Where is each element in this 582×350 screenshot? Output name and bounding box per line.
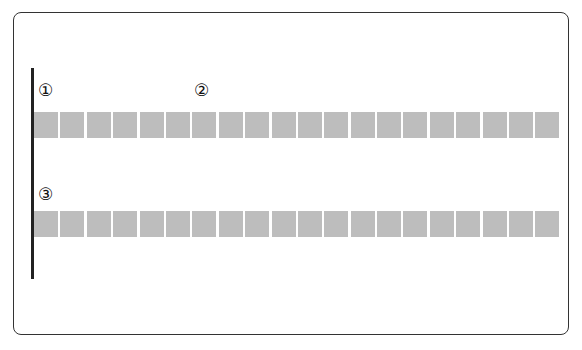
cell-row-1 bbox=[34, 112, 559, 138]
cell bbox=[34, 112, 58, 138]
cell bbox=[140, 112, 164, 138]
cell bbox=[298, 211, 322, 237]
cell bbox=[34, 211, 58, 237]
cell bbox=[87, 112, 111, 138]
label-1: ① bbox=[38, 82, 53, 99]
cell bbox=[219, 112, 243, 138]
cell bbox=[509, 112, 533, 138]
cell bbox=[272, 112, 296, 138]
cell bbox=[509, 211, 533, 237]
cell-row-2 bbox=[34, 211, 559, 237]
cell bbox=[430, 211, 454, 237]
cell bbox=[219, 211, 243, 237]
cell bbox=[351, 112, 375, 138]
label-3: ③ bbox=[38, 186, 53, 203]
cell bbox=[140, 211, 164, 237]
cell bbox=[456, 112, 480, 138]
cell bbox=[245, 112, 269, 138]
cell bbox=[377, 211, 401, 237]
diagram-frame bbox=[13, 12, 569, 335]
cell bbox=[192, 112, 216, 138]
cell bbox=[403, 211, 427, 237]
vertical-line bbox=[31, 68, 34, 279]
cell bbox=[535, 112, 559, 138]
cell bbox=[166, 211, 190, 237]
cell bbox=[192, 211, 216, 237]
cell bbox=[113, 211, 137, 237]
cell bbox=[272, 211, 296, 237]
cell bbox=[60, 211, 84, 237]
cell bbox=[351, 211, 375, 237]
cell bbox=[298, 112, 322, 138]
cell bbox=[456, 211, 480, 237]
cell bbox=[166, 112, 190, 138]
cell bbox=[324, 112, 348, 138]
label-2: ② bbox=[194, 82, 209, 99]
cell bbox=[535, 211, 559, 237]
cell bbox=[403, 112, 427, 138]
cell bbox=[377, 112, 401, 138]
cell bbox=[245, 211, 269, 237]
cell bbox=[483, 112, 507, 138]
cell bbox=[430, 112, 454, 138]
cell bbox=[483, 211, 507, 237]
cell bbox=[60, 112, 84, 138]
cell bbox=[87, 211, 111, 237]
cell bbox=[324, 211, 348, 237]
cell bbox=[113, 112, 137, 138]
